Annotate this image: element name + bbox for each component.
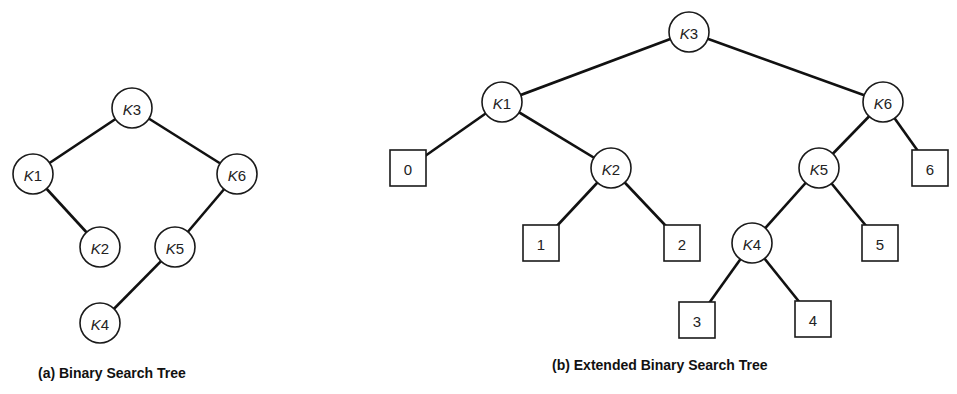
leaf-label: 2 [678,236,686,253]
leaf-label: 0 [404,161,412,178]
node-label: K1 [24,167,42,184]
extended-binary-search-tree: K3K1K6K2K5K40123456 [390,12,948,338]
tree-a-node-k4: K4 [80,303,120,343]
node-label: K2 [91,240,109,257]
tree-a-node-k3: K3 [112,88,152,128]
tree-a-node-k2: K2 [80,227,120,267]
tree-b-leaf-1: 1 [523,225,559,261]
node-label: K3 [123,101,141,118]
tree-b-nodes: K3K1K6K2K5K40123456 [390,12,948,338]
tree-a-node-k6: K6 [217,154,257,194]
leaf-label: 4 [809,312,817,329]
node-label: K2 [602,161,620,178]
tree-b-edge-K3-K6 [689,32,883,102]
tree-b-leaf-5: 5 [862,225,898,261]
tree-b-node-k1: K1 [482,82,522,122]
tree-b-leaf-2: 2 [664,225,700,261]
tree-b-leaf-3: 3 [679,302,715,338]
tree-b-leaf-4: 4 [795,301,831,337]
leaf-label: 6 [926,161,934,178]
leaf-label: 3 [693,313,701,330]
node-label: K4 [91,316,109,333]
tree-a-node-k1: K1 [13,154,53,194]
tree-b-node-k4: K4 [732,223,772,263]
tree-a-nodes: K3K1K6K2K5K4 [13,88,257,343]
node-label: K3 [680,25,698,42]
node-label: K1 [493,95,511,112]
leaf-label: 5 [876,236,884,253]
diagram-canvas: K3K1K6K2K5K4 K3K1K6K2K5K40123456 [0,0,957,394]
tree-b-leaf-6: 6 [912,150,948,186]
tree-b-node-k2: K2 [591,148,631,188]
node-label: K6 [228,167,246,184]
binary-search-tree: K3K1K6K2K5K4 [13,88,257,343]
tree-a-node-k5: K5 [155,227,195,267]
tree-b-edges [408,32,930,320]
caption-a: (a) Binary Search Tree [38,365,186,381]
node-label: K4 [743,236,761,253]
tree-b-edge-K3-K1 [502,32,689,102]
caption-b: (b) Extended Binary Search Tree [552,357,768,373]
tree-b-node-k5: K5 [799,148,839,188]
tree-b-leaf-0: 0 [390,150,426,186]
node-label: K5 [810,161,828,178]
tree-b-node-k3: K3 [669,12,709,52]
leaf-label: 1 [537,236,545,253]
tree-b-node-k6: K6 [863,82,903,122]
tree-a-edges [33,108,237,323]
node-label: K6 [874,95,892,112]
node-label: K5 [166,240,184,257]
